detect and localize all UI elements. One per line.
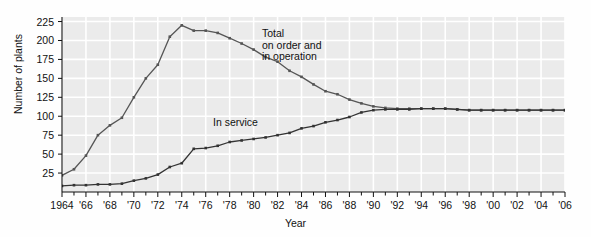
series-annotation-in-service: In service [213,117,258,129]
y-tick-label: 25 [14,168,54,179]
x-tick-label: '76 [199,200,213,211]
x-tick-label: '84 [295,200,309,211]
y-tick-label: 50 [14,149,54,160]
x-tick-label: '98 [462,200,476,211]
chart-figure: 255075100125150175200225 1964'66'68'70'7… [0,0,591,237]
x-tick-label: '92 [390,200,404,211]
x-tick-label: '70 [127,200,141,211]
x-tick-label: '82 [271,200,285,211]
series-annotation-total: Total on order and in operation [262,28,322,63]
x-tick-label: '00 [486,200,500,211]
x-tick-label: '68 [103,200,117,211]
x-tick-label: '96 [438,200,452,211]
x-tick-label: '90 [367,200,381,211]
x-tick-label: '80 [247,200,261,211]
x-tick-label: '04 [534,200,548,211]
x-tick-label: '94 [414,200,428,211]
x-tick-label: '72 [151,200,165,211]
x-tick-label: '66 [79,200,93,211]
y-axis-title: Number of plants [12,14,24,134]
x-tick-label: '88 [343,200,357,211]
x-tick-label: '02 [510,200,524,211]
x-tick-label: '74 [175,200,189,211]
x-tick-label: '78 [223,200,237,211]
x-tick-label: '06 [558,200,572,211]
x-axis-title: Year [0,217,591,229]
x-tick-label: '86 [319,200,333,211]
x-tick-label: 1964 [50,200,73,211]
